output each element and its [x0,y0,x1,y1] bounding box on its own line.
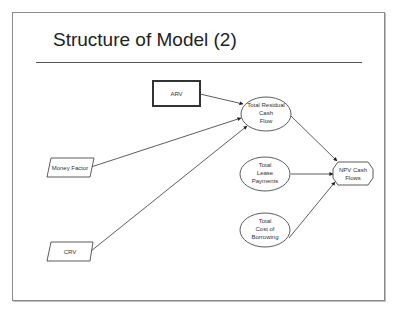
svg-text:Total: Total [259,162,272,168]
edge-arv-to-residual [200,94,243,104]
edge-residual-to-npv [291,116,337,161]
edge-crv-to-residual [91,126,247,251]
node-arv[interactable]: ARV [153,81,200,106]
node-npv-cash-flows[interactable]: NPV Cash Flows [333,162,373,185]
svg-text:Lease: Lease [257,170,274,176]
svg-text:Cost of: Cost of [255,226,274,232]
svg-text:Cash: Cash [259,110,273,116]
edge-money-factor-to-residual [91,118,241,167]
node-total-residual[interactable]: Total Residual Cash Flow [241,97,291,131]
svg-text:Total: Total [259,218,272,224]
svg-text:Flows: Flows [345,175,361,181]
svg-text:Money Factor: Money Factor [52,165,89,171]
svg-text:Borrowing: Borrowing [251,234,278,240]
svg-text:ARV: ARV [170,91,182,97]
node-total-lease[interactable]: Total Lease Payments [240,157,290,191]
svg-text:NPV Cash: NPV Cash [339,167,367,173]
node-money-factor[interactable]: Money Factor [47,158,94,177]
edge-cost-to-npv [289,182,335,238]
node-crv[interactable]: CRV [47,242,93,261]
svg-text:Total Residual: Total Residual [247,102,285,108]
node-total-cost[interactable]: Total Cost of Borrowing [240,213,290,247]
svg-text:Payments: Payments [252,178,279,184]
svg-text:CRV: CRV [64,249,77,255]
svg-text:Flow: Flow [260,118,273,124]
model-diagram: ARV Money Factor CRV Total Residual Cash… [0,0,394,310]
